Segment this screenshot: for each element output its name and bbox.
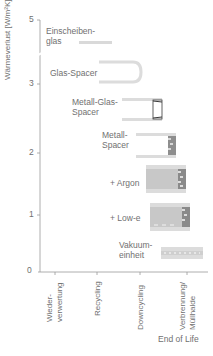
item-label-einscheibenglas: Einscheiben- glas — [46, 26, 95, 46]
icon-glass-spacer — [99, 62, 141, 82]
item-label-metall-spacer: Metall- Spacer — [102, 130, 129, 150]
item-label-lowe: + Low-e — [110, 213, 140, 223]
icon-metal-spacer — [136, 133, 176, 158]
icon-vacuum-unit — [161, 247, 203, 259]
y-tick-label: 5 — [29, 14, 34, 24]
item-label-metall-glas-spacer: Metall-Glas- Spacer — [72, 97, 118, 117]
y-tick-label: 3 — [29, 78, 34, 88]
y-axis-label: Wärmeverlust [W/m²K] — [3, 0, 12, 80]
x-category-label: Downcycling — [136, 285, 146, 330]
x-category-label: Verbrennung/ Müllhalde — [178, 282, 197, 330]
item-label-argon: + Argon — [110, 178, 140, 188]
axis-break — [38, 53, 42, 55]
icon-argon-unit — [146, 165, 186, 193]
y-tick-label: 0 — [27, 265, 32, 275]
y-tick-label: 1 — [29, 209, 34, 219]
item-label-vakuum: Vakuum- einheit — [119, 240, 152, 260]
x-category-label: Wieder- verwertung — [45, 282, 64, 322]
icon-metal-glass-spacer — [122, 98, 162, 121]
item-label-glas-spacer: Glas-Spacer — [50, 68, 97, 78]
y-tick-label: 2 — [29, 147, 34, 157]
x-axis-title: End of Life — [158, 334, 199, 344]
x-category-label: Recycling — [93, 281, 103, 316]
icon-lowe-unit — [150, 203, 190, 231]
